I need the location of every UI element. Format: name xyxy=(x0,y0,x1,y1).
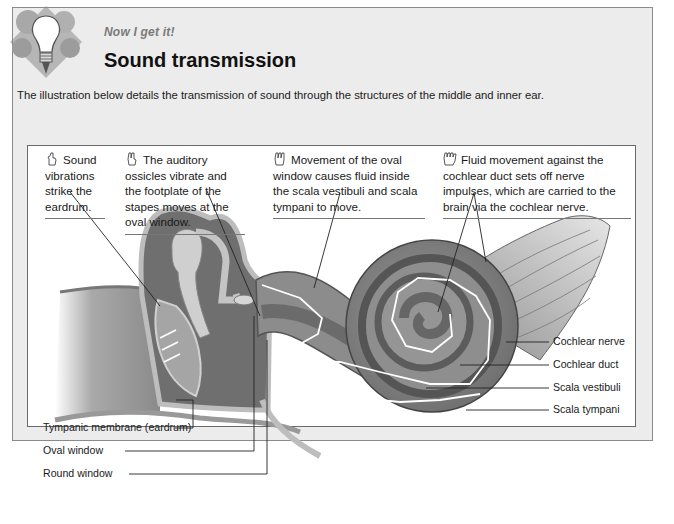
callout-text: The auditory ossicles vibrate and the fo… xyxy=(125,153,229,228)
callout-divider xyxy=(125,234,245,235)
callout-step-3: Movement of the oval window causes fluid… xyxy=(273,152,425,214)
hand-four-icon xyxy=(443,152,457,166)
label-scala-tympani: Scala tympani xyxy=(553,403,620,415)
label-scala-vestibuli: Scala vestibuli xyxy=(553,381,621,393)
callout-step-2: The auditory ossicles vibrate and the fo… xyxy=(125,152,245,230)
callout-divider xyxy=(273,218,425,219)
callout-text: Fluid movement against the cochlear duct… xyxy=(443,153,616,213)
callout-divider xyxy=(443,218,631,219)
callout-step-1: Sound vibrations strike the eardrum. xyxy=(45,152,105,214)
callout-step-4: Fluid movement against the cochlear duct… xyxy=(443,152,631,214)
label-cochlear-duct: Cochlear duct xyxy=(553,358,618,370)
hand-two-icon xyxy=(125,152,139,166)
hand-three-icon xyxy=(273,152,287,166)
label-cochlear-nerve: Cochlear nerve xyxy=(553,335,625,347)
label-oval-window: Oval window xyxy=(43,444,103,456)
label-tympanic-membrane: Tympanic membrane (eardrum) xyxy=(43,421,191,433)
hand-one-icon xyxy=(45,152,59,166)
label-round-window: Round window xyxy=(43,467,113,479)
callout-divider xyxy=(45,218,105,219)
callout-text: Movement of the oval window causes fluid… xyxy=(273,153,417,213)
